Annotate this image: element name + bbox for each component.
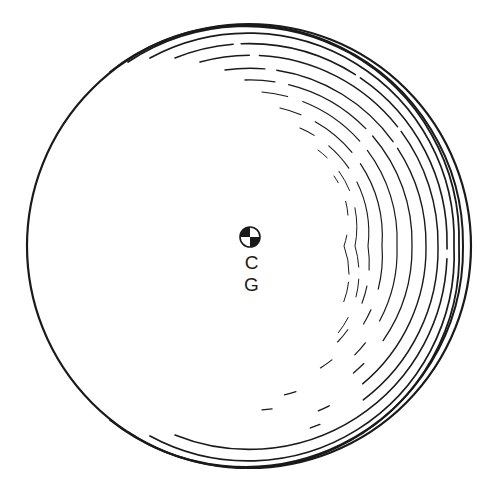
sphere-diagram bbox=[0, 0, 490, 484]
shading-arcs bbox=[110, 25, 463, 468]
center-of-gravity-icon bbox=[240, 227, 260, 247]
cg-label: C G bbox=[230, 252, 274, 296]
